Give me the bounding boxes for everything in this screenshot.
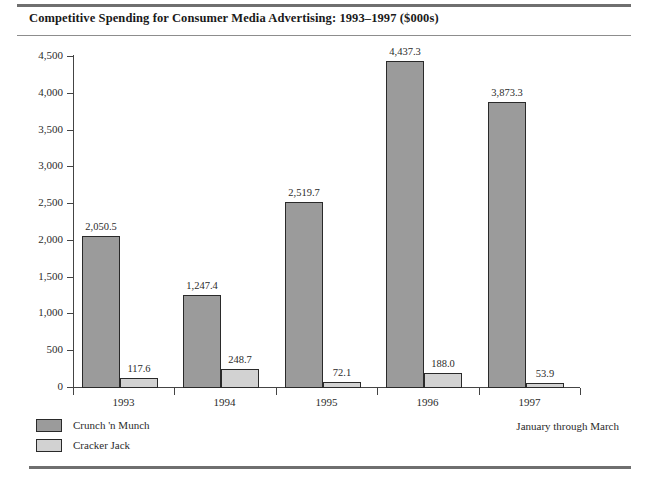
bar-value-1995-cracker-jack: 72.1 [312, 367, 372, 378]
x-axis-label-1993: 1993 [73, 396, 174, 408]
legend-item-crunch-n-munch: Crunch 'n Munch [36, 415, 150, 435]
bar-1995-cracker-jack [323, 382, 361, 388]
bar-1996-cracker-jack [424, 373, 462, 388]
bottom-rule [29, 466, 631, 469]
x-tick-1993 [73, 388, 74, 395]
chart-legend: Crunch 'n Munch Cracker Jack [36, 415, 150, 455]
y-tick-label-1500: 1,500 [38, 270, 63, 282]
bar-1997-crunch-n-munch [488, 102, 526, 388]
plot-area: 05001,0001,5002,0002,5003,0003,5004,0004… [0, 0, 648, 479]
chart-figure: Competitive Spending for Consumer Media … [0, 0, 648, 479]
y-tick-label-3500: 3,500 [38, 123, 63, 135]
x-tick-1995 [276, 388, 277, 395]
bar-value-1996-crunch-n-munch: 4,437.3 [375, 46, 435, 57]
y-tick-3500 [67, 130, 73, 131]
y-tick-1000 [67, 313, 73, 314]
y-tick-3000 [67, 166, 73, 167]
y-tick-label-500: 500 [47, 343, 64, 355]
bar-value-1994-cracker-jack: 248.7 [210, 354, 270, 365]
bar-1993-cracker-jack [120, 378, 158, 388]
bar-value-1994-crunch-n-munch: 1,247.4 [172, 280, 232, 291]
bar-value-1996-cracker-jack: 188.0 [413, 358, 473, 369]
y-tick-1500 [67, 277, 73, 278]
x-axis-label-1996: 1996 [377, 396, 478, 408]
bar-value-1993-cracker-jack: 117.6 [109, 363, 169, 374]
y-tick-4500 [67, 56, 73, 57]
x-tick-1996 [377, 388, 378, 395]
x-tick-1994 [174, 388, 175, 395]
legend-swatch-icon-cracker-jack [36, 439, 62, 452]
y-tick-2000 [67, 240, 73, 241]
legend-label-crunch-n-munch: Crunch 'n Munch [73, 419, 150, 431]
bar-1996-crunch-n-munch [386, 61, 424, 388]
bar-value-1995-crunch-n-munch: 2,519.7 [274, 187, 334, 198]
x-axis-label-1997: 1997 [479, 396, 580, 408]
bar-1994-crunch-n-munch [183, 295, 221, 388]
x-axis-label-1995: 1995 [276, 396, 377, 408]
bar-1995-crunch-n-munch [285, 202, 323, 388]
y-tick-label-2000: 2,000 [38, 233, 63, 245]
legend-swatch-icon-crunch-n-munch [36, 419, 62, 432]
y-tick-label-1000: 1,000 [38, 306, 63, 318]
bar-value-1993-crunch-n-munch: 2,050.5 [71, 221, 131, 232]
bar-value-1997-cracker-jack: 53.9 [515, 368, 575, 379]
y-tick-label-0: 0 [58, 380, 64, 392]
x-tick-end [580, 388, 581, 395]
x-axis-label-1994: 1994 [174, 396, 275, 408]
legend-item-cracker-jack: Cracker Jack [36, 435, 150, 455]
chart-footnote: January through March [516, 420, 619, 432]
x-tick-1997 [479, 388, 480, 395]
bar-1994-cracker-jack [221, 369, 259, 388]
bar-value-1997-crunch-n-munch: 3,873.3 [477, 87, 537, 98]
y-tick-2500 [67, 203, 73, 204]
y-tick-label-4000: 4,000 [38, 86, 63, 98]
y-tick-500 [67, 350, 73, 351]
legend-label-cracker-jack: Cracker Jack [73, 439, 130, 451]
y-tick-label-4500: 4,500 [38, 49, 63, 61]
y-tick-label-2500: 2,500 [38, 196, 63, 208]
y-tick-4000 [67, 93, 73, 94]
bar-1997-cracker-jack [526, 383, 564, 388]
y-tick-label-3000: 3,000 [38, 159, 63, 171]
